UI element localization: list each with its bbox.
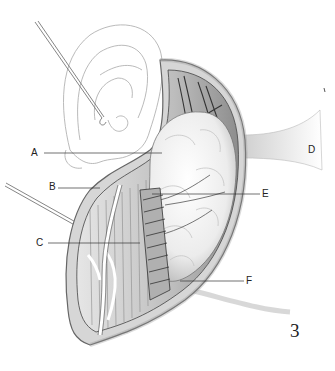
- structure-d: [242, 110, 322, 170]
- label-d: D: [308, 145, 315, 155]
- label-c: C: [36, 238, 43, 248]
- anatomical-illustration: A B C D E F 3: [0, 0, 335, 371]
- retractor-hook-upper: [35, 21, 106, 125]
- lower-tail: [190, 290, 290, 312]
- label-a: A: [31, 148, 38, 158]
- figure-number: 3: [290, 321, 300, 340]
- label-f: F: [246, 276, 252, 286]
- label-b: B: [49, 182, 56, 192]
- ear-outline: [63, 25, 162, 168]
- label-e: E: [262, 189, 269, 199]
